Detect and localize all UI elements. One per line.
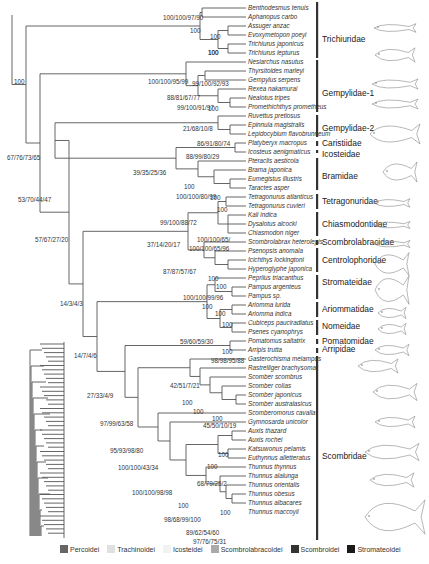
support-value: 100 bbox=[208, 275, 219, 282]
fish-icon bbox=[378, 323, 406, 334]
support-value: 27/33/4/9 bbox=[87, 392, 114, 399]
legend-label: Stromateoidei bbox=[357, 546, 400, 553]
family-bar bbox=[316, 356, 318, 540]
taxon-label: Kali indica bbox=[248, 211, 277, 218]
taxon-label: Nealotus tripes bbox=[248, 94, 291, 102]
fish-icon bbox=[374, 24, 416, 33]
taxon-label: Aphanopus carbo bbox=[247, 13, 298, 21]
phylogenetic-tree: Benthodesmus tenuisAphanopus carboAssuge… bbox=[0, 0, 429, 564]
support-value: 88/81/67/77 bbox=[167, 94, 201, 101]
taxon-label: Pteraclis aesticola bbox=[248, 157, 299, 164]
taxon-label: Epinnula magistralis bbox=[248, 121, 305, 129]
taxon-label: Scomber colias bbox=[248, 382, 292, 389]
suborder-legend: PercoideiTrachinoideiIcosteideiScombrola… bbox=[60, 545, 405, 553]
inset-tree-thumbnail bbox=[28, 340, 66, 540]
taxon-label: Ruvettus pretiosus bbox=[248, 112, 301, 120]
support-value: 100 bbox=[222, 348, 233, 355]
support-value: 100/100/65/ bbox=[197, 236, 231, 243]
family-bar bbox=[316, 248, 318, 272]
support-value: 68/79/25/2 bbox=[197, 480, 227, 487]
taxon-label: Platyberyx macropus bbox=[248, 139, 308, 147]
taxon-label: Arripis trutta bbox=[247, 346, 282, 354]
family-bar bbox=[316, 302, 318, 317]
legend-swatch bbox=[163, 545, 171, 553]
support-value: 100 bbox=[207, 463, 218, 470]
support-value: 100 bbox=[217, 206, 228, 213]
support-value: 100 bbox=[208, 49, 219, 56]
support-value: 14/3/4/3 bbox=[60, 300, 83, 307]
taxon-label: Icichthys lockingtoni bbox=[248, 256, 305, 264]
taxon-label: Scomber scombrus bbox=[248, 373, 303, 380]
taxon-label: Rexea nakamurai bbox=[248, 85, 298, 92]
support-value: 14/7/4/6 bbox=[74, 352, 97, 359]
fish-icon bbox=[378, 307, 406, 318]
family-label: Gempylidae-1 bbox=[322, 88, 374, 98]
taxon-label: Icosteus aenigmaticus bbox=[248, 148, 311, 156]
family-bar bbox=[316, 150, 318, 153]
fish-icon bbox=[365, 443, 419, 460]
support-value: 99/100/88/72 bbox=[160, 219, 197, 226]
taxon-label: Gymnosarda unicolor bbox=[248, 418, 309, 426]
support-value: 100 bbox=[216, 283, 227, 290]
taxon-label: Hyperoglyphe japonica bbox=[248, 265, 313, 273]
support-value: 100/100/43/34 bbox=[118, 464, 159, 471]
support-value: 100/100/95/99 bbox=[148, 78, 189, 85]
fish-icon bbox=[375, 416, 415, 427]
taxon-label: Euthynnus alletteratus bbox=[248, 454, 311, 462]
family-label: Icosteidae bbox=[322, 149, 361, 159]
taxon-label: Auxis rochei bbox=[247, 436, 283, 443]
support-value: 99/100/92/93 bbox=[192, 80, 229, 87]
legend-label: Icosteidei bbox=[173, 546, 203, 553]
family-bar bbox=[316, 212, 318, 236]
family-label: Trichiuridae bbox=[322, 34, 366, 44]
family-bar bbox=[316, 2, 318, 58]
taxon-label: Peprilus triacanthus bbox=[248, 274, 304, 282]
family-label: Arripidae bbox=[322, 344, 356, 354]
legend-item: Icosteidei bbox=[163, 545, 203, 553]
support-value: 100 bbox=[218, 451, 229, 458]
taxon-label: Nesiarchus nasutus bbox=[248, 58, 304, 65]
legend-swatch bbox=[60, 545, 68, 553]
taxon-label: Auxis thazard bbox=[247, 427, 287, 434]
support-value: 88/99/80/29 bbox=[186, 153, 220, 160]
support-value: 100 bbox=[220, 509, 231, 516]
support-value: 45/50/10/19 bbox=[203, 422, 237, 429]
legend-label: Scombroidei bbox=[301, 546, 340, 553]
taxon-label: Chiasmodon niger bbox=[248, 229, 300, 237]
taxon-label: Assuger anzac bbox=[247, 22, 291, 30]
fish-icon bbox=[374, 199, 410, 208]
family-bar bbox=[316, 240, 318, 245]
support-value: 100 bbox=[178, 502, 189, 509]
family-bar bbox=[316, 158, 318, 190]
support-value: 100 bbox=[212, 415, 223, 422]
family-label: Gempylidae-2 bbox=[322, 123, 374, 133]
legend-item: Trachinoidei bbox=[107, 545, 155, 553]
fish-icon bbox=[372, 79, 418, 89]
taxon-label: Thunnus alalunga bbox=[248, 472, 299, 480]
legend-label: Percoidei bbox=[70, 546, 99, 553]
taxon-label: Thunnus obesus bbox=[248, 490, 295, 497]
support-value: 100 bbox=[210, 194, 221, 201]
fish-icon bbox=[383, 162, 417, 182]
taxon-label: Taractes asper bbox=[248, 184, 290, 192]
support-value: 100/100/97/90 bbox=[163, 14, 204, 21]
support-value: 89/62/54/60 bbox=[186, 529, 220, 536]
legend-swatch bbox=[291, 545, 299, 553]
taxon-label: Thyrsitoides marleyi bbox=[248, 67, 305, 75]
taxon-label: Thunnus maccoyii bbox=[248, 508, 299, 516]
legend-item: Stromateoidei bbox=[347, 545, 400, 553]
fish-icon bbox=[375, 48, 415, 62]
family-label: Nomeidae bbox=[322, 321, 361, 331]
family-label: Centrolophoridae bbox=[322, 255, 387, 265]
taxon-label: Eumegistus illustris bbox=[248, 175, 303, 183]
taxon-label: Trichiurus japonicus bbox=[248, 40, 304, 48]
support-value: 67/76/73/65 bbox=[7, 154, 41, 161]
taxon-label: Ariomma indica bbox=[247, 310, 292, 317]
support-value: 100/100/98/98 bbox=[132, 489, 173, 496]
family-label: Scombrolabracidae bbox=[322, 237, 394, 247]
taxon-label: Ariomma lurida bbox=[247, 301, 291, 308]
legend-swatch bbox=[211, 545, 219, 553]
fish-icon bbox=[370, 124, 420, 144]
support-value: 100 bbox=[210, 33, 221, 40]
root-support: 100 bbox=[14, 78, 25, 85]
